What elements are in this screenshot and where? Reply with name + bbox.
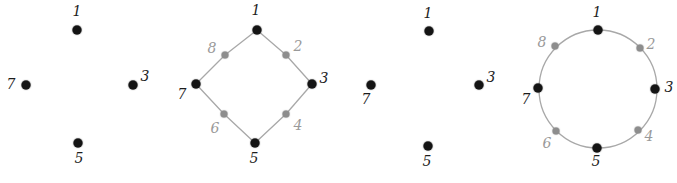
node-dot-6[interactable] (553, 128, 560, 135)
edge-8-1 (225, 30, 257, 55)
node-label-4: 4 (645, 129, 654, 143)
node-label-8: 8 (538, 35, 547, 49)
node-dot-1[interactable] (594, 26, 603, 35)
node-label-5: 5 (250, 151, 259, 165)
edge-3-4 (286, 84, 312, 114)
node-label-7: 7 (7, 77, 16, 91)
node-label-1: 1 (73, 4, 82, 18)
node-dot-8[interactable] (552, 43, 559, 50)
node-dot-2[interactable] (637, 45, 644, 52)
edge-1-2 (257, 30, 286, 55)
edge-7-8 (196, 55, 225, 84)
node-label-5: 5 (75, 151, 84, 165)
node-dot-7[interactable] (22, 81, 31, 90)
node-label-1: 1 (593, 5, 602, 19)
node-label-1: 1 (424, 6, 433, 20)
panel-circle-eight-points: 12345678 (510, 0, 677, 183)
node-dot-4[interactable] (283, 111, 290, 118)
node-dot-8[interactable] (222, 52, 229, 59)
node-dot-7[interactable] (534, 84, 543, 93)
node-label-6: 6 (211, 121, 220, 135)
edge-5-6 (224, 114, 255, 143)
node-dot-1[interactable] (425, 27, 434, 36)
node-label-5: 5 (423, 154, 432, 168)
node-dot-3[interactable] (129, 81, 138, 90)
figure-canvas: 135712345678135712345678 (0, 0, 677, 183)
node-label-5: 5 (592, 154, 601, 168)
node-dot-2[interactable] (283, 52, 290, 59)
node-dot-3[interactable] (651, 85, 660, 94)
node-label-6: 6 (543, 136, 552, 150)
node-dot-5[interactable] (593, 144, 602, 153)
node-label-3: 3 (320, 71, 329, 85)
node-label-8: 8 (208, 41, 217, 55)
panel-four-dots-left: 1357 (0, 0, 165, 183)
node-label-7: 7 (362, 92, 371, 106)
panel-diamond-eight-points: 12345678 (165, 0, 345, 183)
node-dot-4[interactable] (635, 127, 642, 134)
panel-four-dots-right: 1357 (345, 0, 510, 183)
node-label-7: 7 (522, 92, 531, 106)
node-dot-5[interactable] (74, 139, 83, 148)
node-dot-7[interactable] (367, 81, 376, 90)
edge-6-7 (196, 84, 224, 114)
node-dot-5[interactable] (251, 139, 260, 148)
node-label-7: 7 (178, 87, 187, 101)
node-dot-6[interactable] (221, 111, 228, 118)
node-dot-1[interactable] (73, 26, 82, 35)
node-label-3: 3 (487, 70, 496, 84)
node-dot-3[interactable] (308, 80, 317, 89)
node-dot-5[interactable] (424, 142, 433, 151)
node-dot-7[interactable] (192, 80, 201, 89)
edge-4-5 (255, 114, 286, 143)
node-label-1: 1 (252, 3, 261, 17)
node-label-3: 3 (141, 69, 150, 83)
node-label-4: 4 (294, 118, 303, 132)
node-label-2: 2 (647, 37, 656, 51)
node-dot-3[interactable] (475, 81, 484, 90)
node-label-3: 3 (665, 80, 674, 94)
node-dot-1[interactable] (253, 26, 262, 35)
node-label-2: 2 (294, 39, 303, 53)
